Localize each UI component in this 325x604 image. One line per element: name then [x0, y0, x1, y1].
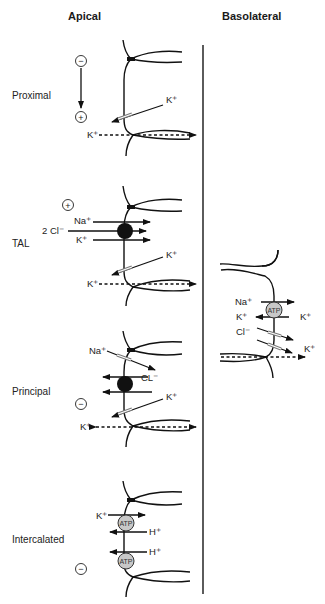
svg-text:ATP: ATP — [119, 520, 132, 527]
principal-segment: Principal − Na⁺ CL⁻ K⁺ K⁺ — [12, 331, 196, 447]
h-k-atpase-pump: ATP — [118, 515, 134, 531]
svg-text:−: − — [78, 56, 83, 66]
tal-k-label: K⁺ — [76, 234, 87, 245]
tal-k-channel-label: K⁺ — [166, 249, 177, 260]
svg-text:ATP: ATP — [267, 307, 280, 314]
negative-charge-icon: − — [76, 56, 87, 67]
intercalated-label: Intercalated — [12, 534, 64, 545]
basolateral-header: Basolateral — [222, 10, 281, 22]
tal-cl-label: 2 Cl⁻ — [42, 225, 64, 236]
basolateral-cl-label: Cl⁻ — [236, 326, 250, 337]
tal-na-label: Na⁺ — [74, 215, 91, 226]
proximal-label: Proximal — [12, 90, 51, 101]
svg-text:+: + — [65, 201, 70, 211]
renal-potassium-transport-diagram: Apical Basolateral Proximal − + K⁺ K⁺ TA… — [0, 0, 325, 604]
tal-label: TAL — [12, 238, 30, 249]
basolateral-na-label: Na⁺ — [235, 296, 252, 307]
proximal-k-paracellular-label: K⁺ — [87, 129, 98, 140]
principal-cl-label: CL⁻ — [141, 372, 158, 383]
proximal-k-channel-label: K⁺ — [166, 94, 177, 105]
svg-text:−: − — [78, 399, 83, 409]
basolateral-k-in-label: K⁺ — [236, 311, 247, 322]
basolateral-cell: Na⁺ K⁺ ATP K⁺ Cl⁻ K⁺ — [220, 250, 315, 378]
basolateral-k-channel-label: K⁺ — [304, 343, 315, 354]
principal-k-channel-label: K⁺ — [166, 391, 177, 402]
negative-charge-icon: − — [76, 564, 87, 575]
proximal-segment: Proximal − + K⁺ K⁺ — [12, 40, 196, 156]
h-atpase-pump: ATP — [118, 553, 134, 569]
intercalated-h2-label: H⁺ — [149, 546, 161, 557]
svg-text:+: + — [78, 113, 83, 123]
positive-charge-icon: + — [63, 200, 74, 211]
svg-text:ATP: ATP — [119, 558, 132, 565]
tal-segment: TAL + Na⁺ 2 Cl⁻ K⁺ K⁺ K⁺ — [12, 186, 196, 306]
principal-label: Principal — [12, 386, 50, 397]
tal-k-paracellular-label: K⁺ — [87, 278, 98, 289]
apical-header: Apical — [68, 10, 101, 22]
svg-text:−: − — [78, 564, 83, 574]
principal-transporter — [117, 376, 133, 392]
principal-k-paracellular-label: K⁺ — [80, 421, 91, 432]
positive-charge-icon: + — [76, 112, 87, 123]
intercalated-k-label: K⁺ — [96, 510, 107, 521]
principal-na-label: Na⁺ — [89, 345, 106, 356]
na-k-atpase-pump: ATP — [266, 302, 282, 318]
negative-charge-icon: − — [76, 399, 87, 410]
intercalated-segment: Intercalated − K⁺ H⁺ ATP H⁺ ATP — [12, 481, 190, 597]
nkcc-cotransporter — [117, 223, 133, 239]
intercalated-h1-label: H⁺ — [149, 526, 161, 537]
basolateral-k-out-label: K⁺ — [300, 311, 311, 322]
